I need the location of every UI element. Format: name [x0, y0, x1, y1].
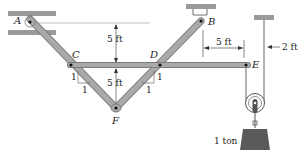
dimension-label-upper: 5 ft	[107, 35, 123, 44]
slope-right-rise: 1	[157, 73, 163, 82]
pin-C	[69, 63, 72, 66]
arrow-left-icon	[204, 46, 209, 50]
load-label: 1 ton	[214, 137, 237, 146]
arrow-up-icon	[114, 68, 118, 73]
pin-E	[244, 63, 247, 66]
node-label-b: B	[208, 17, 215, 27]
dimension-label-lower: 5 ft	[107, 79, 123, 88]
dimension-label-rope: 2 ft	[282, 43, 298, 52]
node-label-c: C	[72, 50, 80, 60]
support-b-bracket	[193, 9, 207, 15]
slope-left-run: 1	[82, 86, 88, 95]
arrow-up-icon	[114, 24, 118, 29]
pulley-axle	[254, 102, 256, 104]
pin-A	[28, 20, 31, 23]
arrow-left-icon	[267, 45, 272, 49]
arrow-right-icon	[238, 46, 243, 50]
slope-right-run: 1	[146, 86, 152, 95]
node-label-a: A	[14, 16, 21, 26]
frame-diagram	[0, 0, 300, 159]
node-label-d: D	[150, 50, 158, 60]
pin-B	[199, 19, 202, 22]
node-label-f: F	[112, 116, 119, 126]
support-b-ceiling	[186, 4, 216, 9]
pulley-bracket	[253, 99, 258, 113]
weight-block	[240, 129, 270, 150]
pin-F	[114, 106, 117, 109]
node-label-e: E	[252, 60, 259, 70]
slope-left-rise: 1	[71, 73, 77, 82]
support-rope-ceiling	[254, 15, 274, 20]
dimension-label-horizontal: 5 ft	[216, 38, 232, 47]
pin-D	[158, 63, 161, 66]
